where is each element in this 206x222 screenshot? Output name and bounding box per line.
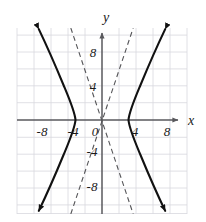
graph-canvas: -8 -4 4 8 8 4 -4 -8 0 x y xyxy=(0,0,206,222)
x-tick-label-8: 8 xyxy=(164,124,171,139)
hyperbola-figure: -8 -4 4 8 8 4 -4 -8 0 x y xyxy=(0,0,206,222)
x-tick-label-4: 4 xyxy=(132,124,139,139)
y-tick-label-8: 8 xyxy=(90,45,97,60)
x-axis-label: x xyxy=(187,113,195,128)
y-axis-label: y xyxy=(101,10,110,25)
y-tick-label-neg4: -4 xyxy=(87,144,98,159)
origin-label: 0 xyxy=(92,124,99,139)
x-tick-label-neg4: -4 xyxy=(68,124,79,139)
y-tick-label-neg8: -8 xyxy=(87,179,98,194)
x-tick-label-neg8: -8 xyxy=(37,124,48,139)
y-tick-label-4: 4 xyxy=(90,79,97,94)
